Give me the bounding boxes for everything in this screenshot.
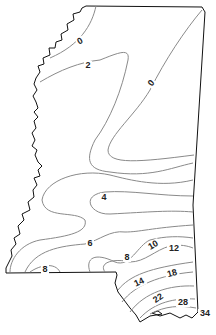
contour-label: 8 [42, 264, 47, 274]
contour-label: 8 [124, 252, 129, 262]
contour-label: 34 [200, 308, 210, 318]
contour-map: 020468101281418222834 [0, 0, 216, 335]
contour-label: 6 [87, 238, 92, 248]
contour-label: 12 [169, 243, 179, 253]
contour-label: 4 [101, 192, 106, 202]
contour-label: 28 [178, 297, 188, 307]
contour-label: 2 [85, 60, 90, 70]
